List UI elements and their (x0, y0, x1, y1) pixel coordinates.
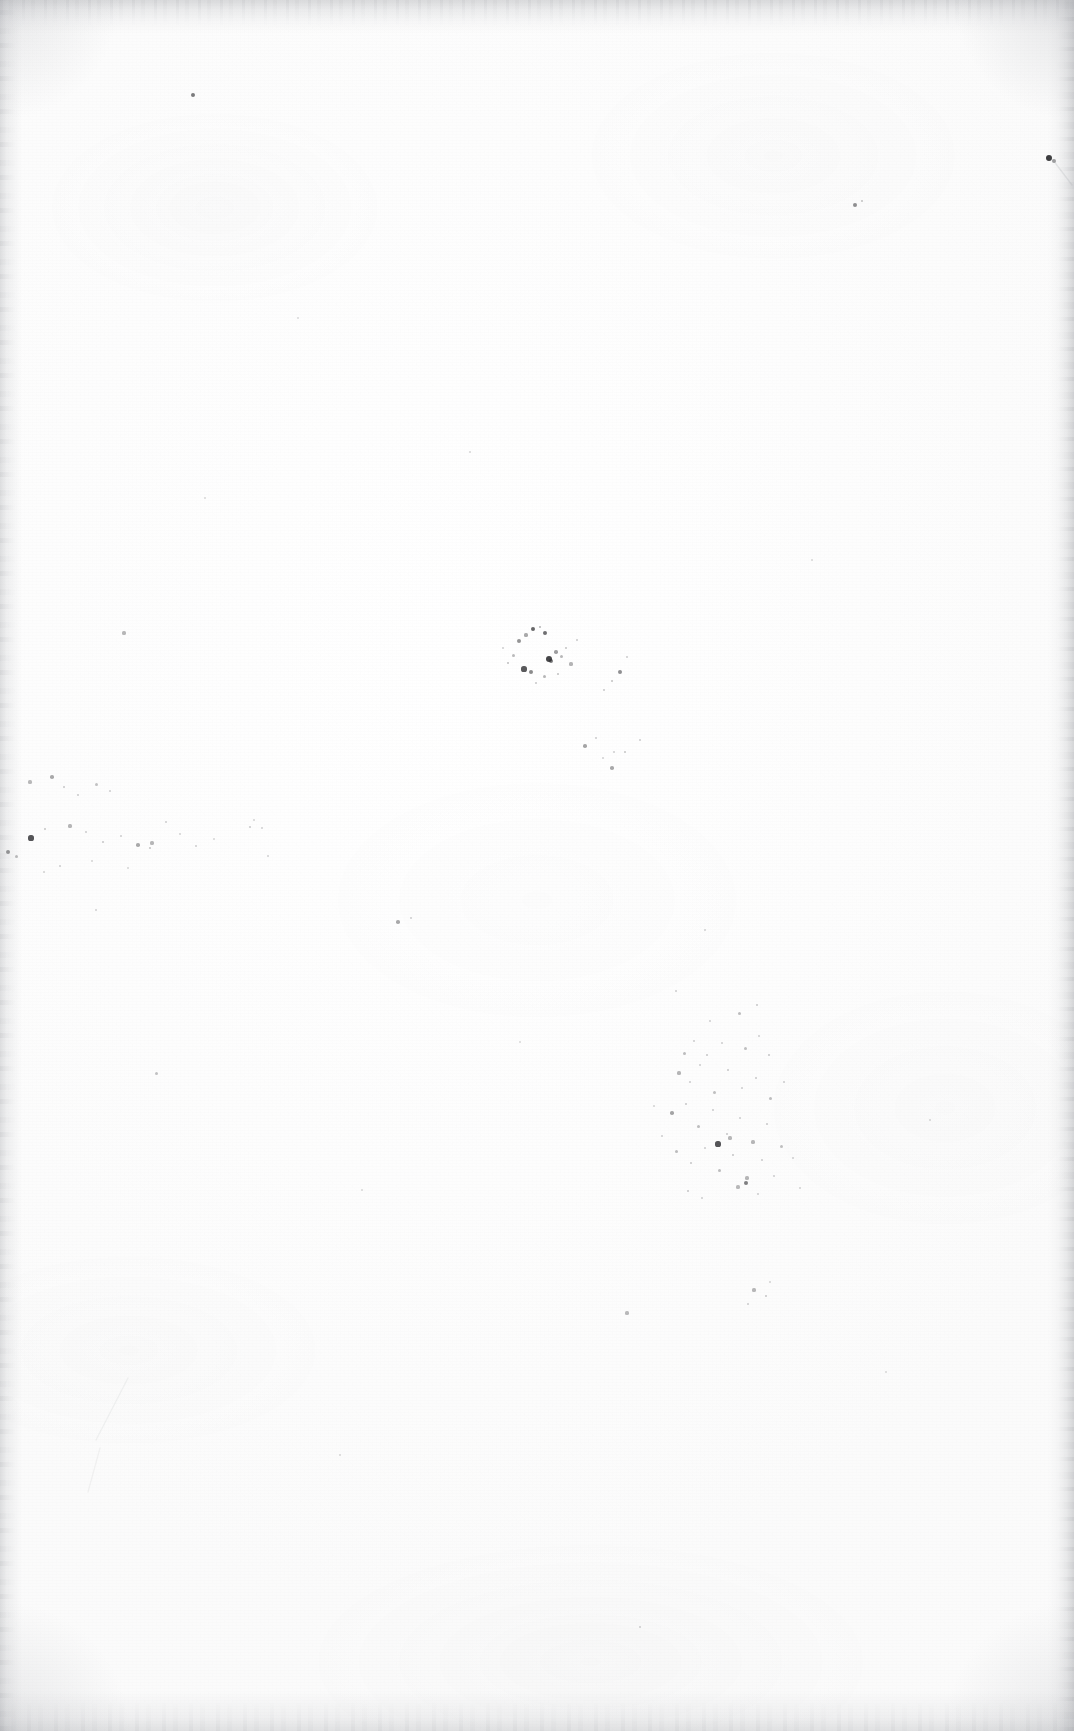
ink-speck (625, 1311, 628, 1314)
ink-speck (685, 1103, 688, 1106)
ink-speck (769, 1097, 772, 1100)
ink-speck (706, 1054, 709, 1057)
ink-speck (557, 673, 560, 676)
scratch-layer (0, 0, 1074, 1731)
ink-speck (738, 1012, 741, 1015)
ink-speck (261, 827, 264, 830)
ink-speck (744, 1047, 747, 1050)
ink-speck (799, 1187, 801, 1189)
ink-speck (792, 1157, 795, 1160)
ink-speck (569, 662, 572, 665)
ink-speck (28, 780, 31, 783)
ink-speck (68, 824, 71, 827)
ink-speck (213, 838, 215, 840)
ink-speck (1052, 159, 1056, 163)
paper-mottle-texture (0, 0, 1074, 1731)
top-edge-shadow (0, 0, 1074, 34)
ink-speck (736, 1185, 739, 1188)
ink-speck (712, 1109, 715, 1112)
ink-speck (565, 647, 568, 650)
ink-speck (613, 751, 616, 754)
ink-speck (50, 775, 54, 779)
ink-speck (6, 850, 10, 854)
ink-speck (751, 1140, 754, 1143)
ink-speck (102, 841, 105, 844)
ink-speck (43, 871, 45, 873)
ink-speck (195, 845, 198, 848)
ink-speck (63, 786, 66, 789)
ink-speck (253, 819, 255, 821)
scanned-page (0, 0, 1074, 1731)
ink-speck (675, 990, 678, 993)
ink-speck (531, 627, 536, 632)
ink-speck (677, 1071, 680, 1074)
ink-speck (618, 670, 622, 674)
ink-speck (718, 1169, 721, 1172)
ink-speck (653, 1105, 655, 1107)
ink-speck (769, 1281, 771, 1283)
ink-speck (297, 317, 299, 319)
ink-speck (611, 680, 614, 683)
ink-speck (741, 1087, 744, 1090)
ink-speck (768, 1054, 771, 1057)
ink-speck (546, 656, 552, 662)
ink-speck (780, 1145, 783, 1148)
ink-speck (502, 647, 504, 649)
ink-speck (853, 203, 857, 207)
ink-speck (109, 790, 112, 793)
ink-speck (155, 1072, 158, 1075)
ink-speck (91, 860, 93, 862)
ink-speck (765, 1295, 768, 1298)
ink-speck (543, 675, 546, 678)
ink-speck (757, 1193, 760, 1196)
ink-speck (85, 831, 88, 834)
bottom-edge-fleck (0, 1701, 1074, 1731)
ink-speck (709, 1020, 712, 1023)
left-edge-fleck (0, 0, 16, 1731)
bottom-edge-shadow (0, 1691, 1074, 1731)
paper-grain-texture (0, 0, 1074, 1731)
ink-speck (410, 917, 413, 920)
ink-speck (120, 835, 123, 838)
ink-speck (361, 1189, 363, 1191)
bottom-left-scratch-lower (88, 1448, 100, 1492)
ink-speck (811, 559, 813, 561)
ink-speck (701, 1197, 704, 1200)
ink-speck (745, 1176, 748, 1179)
ink-speck (624, 751, 627, 754)
ink-speck (249, 826, 252, 829)
ink-speck (693, 1040, 696, 1043)
ink-speck (697, 1125, 700, 1128)
ink-speck (507, 662, 510, 665)
ink-speck (758, 1035, 761, 1038)
ink-speck (690, 1162, 693, 1165)
ink-speck (469, 451, 471, 453)
ink-speck (670, 1111, 674, 1115)
ink-speck (521, 666, 526, 671)
ink-speck (524, 633, 527, 636)
ink-speck (732, 1154, 735, 1157)
ink-speck (77, 794, 80, 797)
ink-speck (704, 1147, 707, 1150)
ink-speck (204, 497, 206, 499)
ink-speck (595, 737, 598, 740)
ink-speck (626, 656, 629, 659)
ink-speck (583, 744, 587, 748)
ink-speck (554, 650, 558, 654)
ink-speck (687, 1190, 690, 1193)
bottom-left-scratch-upper (96, 1378, 128, 1440)
ink-speck (721, 1042, 724, 1045)
ink-speck (639, 1626, 642, 1629)
ink-speck (726, 1133, 729, 1136)
ink-speck (179, 833, 181, 835)
ink-speck (539, 626, 542, 629)
ink-speck (699, 1064, 702, 1067)
ink-speck (713, 1091, 716, 1094)
ink-speck (95, 909, 98, 912)
corner-vignette (0, 0, 1074, 1731)
ink-speck (267, 855, 270, 858)
right-edge-shadow (1048, 0, 1074, 1731)
ink-speck (661, 1135, 664, 1138)
ink-speck (549, 659, 553, 663)
paper-base-tone (0, 0, 1074, 1731)
